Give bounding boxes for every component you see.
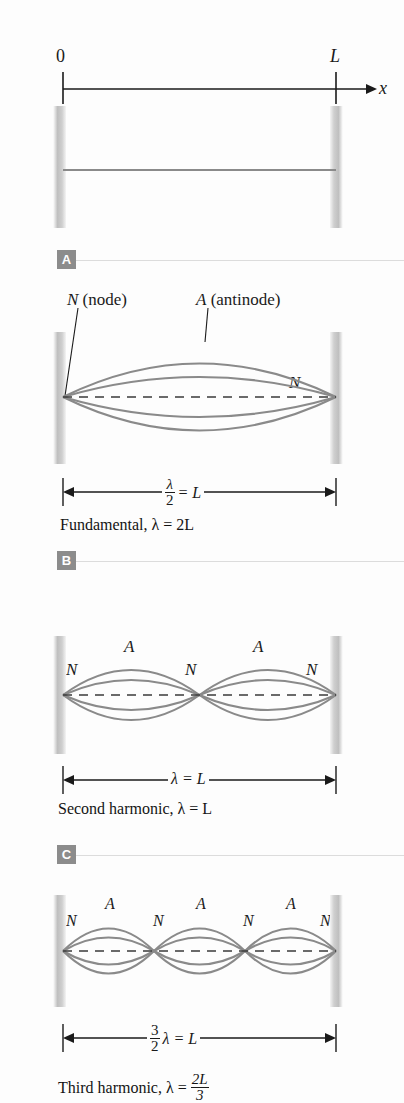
caption-d-prefix: Third harmonic, λ = bbox=[58, 1079, 187, 1097]
panel-d-graphics bbox=[0, 0, 404, 1103]
dim-arrow-right-d bbox=[325, 1033, 336, 1043]
wave-curve-d3-down-outer bbox=[245, 951, 336, 974]
wave-curve-d3-up-outer bbox=[245, 929, 336, 952]
wave-curve-d2-down-outer bbox=[154, 951, 245, 974]
wave-curve-d1-up-outer bbox=[63, 929, 154, 952]
wave-curve-d2-up-outer bbox=[154, 929, 245, 952]
dim-fraction-d: 3 2 bbox=[150, 1023, 160, 1055]
caption-d-fraction: 2L 3 bbox=[191, 1072, 209, 1103]
caption-d: Third harmonic, λ = 2L 3 bbox=[58, 1072, 209, 1103]
dim-equals-d: λ = L bbox=[163, 1030, 198, 1048]
dim-arrow-left-d bbox=[63, 1033, 74, 1043]
wave-curve-d1-down-outer bbox=[63, 951, 154, 974]
figure-standing-waves: 0 L x A N (node) A (antinode) N bbox=[0, 0, 404, 1103]
dim-label-d: 3 2 λ = L bbox=[147, 1023, 200, 1055]
